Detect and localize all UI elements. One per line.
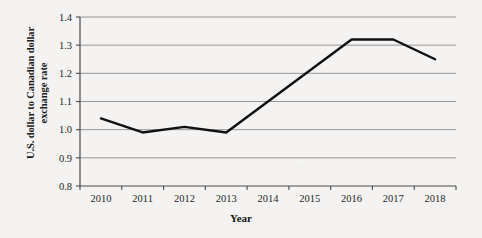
- y-tick-label: 0.8: [59, 181, 72, 192]
- y-tick-label: 1.2: [59, 68, 72, 79]
- data-series-line: [101, 40, 435, 133]
- x-tick-label: 2013: [216, 193, 237, 204]
- y-tick-label: 1.4: [59, 12, 73, 23]
- line-chart-plot: 0.80.91.01.11.21.31.4 201020112012201320…: [0, 0, 482, 238]
- x-tick-label: 2010: [90, 193, 111, 204]
- y-tick-label: 1.3: [59, 40, 72, 51]
- y-tick-labels-group: 0.80.91.01.11.21.31.4: [59, 12, 73, 192]
- x-tick-label: 2012: [174, 193, 195, 204]
- y-tick-label: 1.1: [59, 96, 72, 107]
- gridlines-group: [80, 17, 456, 158]
- x-tick-label: 2014: [258, 193, 280, 204]
- x-tick-label: 2016: [341, 193, 362, 204]
- y-tick-label: 0.9: [59, 153, 72, 164]
- chart-figure: U.S. dollar to Canadian dollar exchange …: [0, 0, 482, 238]
- x-tick-labels-group: 201020112012201320142015201620172018: [90, 193, 445, 204]
- x-tick-label: 2017: [383, 193, 404, 204]
- x-axis-title: Year: [0, 212, 482, 224]
- x-tick-label: 2015: [299, 193, 320, 204]
- x-tick-marks-group: [80, 186, 456, 190]
- x-tick-label: 2018: [425, 193, 446, 204]
- y-tick-label: 1.0: [59, 124, 72, 135]
- x-tick-label: 2011: [132, 193, 153, 204]
